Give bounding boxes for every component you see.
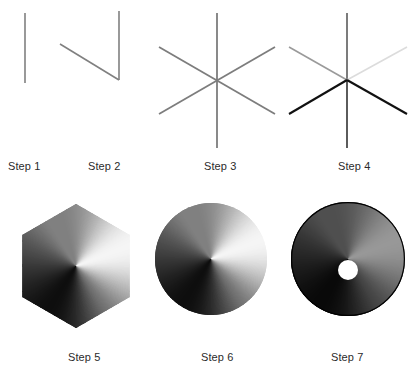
step-4-lower-right-spoke-dark [347,80,407,114]
step-4-lower-left-spoke-dark [289,80,347,114]
step-5-graphic [14,197,138,335]
step-3-graphic [155,8,285,153]
step-4-figure [285,8,414,153]
diagram-canvas: Step 1 Step 2 Step 3 Step 4 Step 5 Step … [0,0,414,367]
step-2-graphic [55,8,145,143]
step-3-figure [155,8,285,153]
step-2-upper-left-diagonal [60,44,119,80]
step-5-caption: Step 5 [68,351,100,363]
step-2-figure [55,8,145,143]
step-3-caption: Step 3 [204,160,236,172]
step-6-caption: Step 6 [201,351,233,363]
step-6-figure [155,201,267,317]
step-6-graphic [155,201,267,317]
step-7-graphic [291,201,405,317]
step-4-graphic [285,8,414,153]
step-7-figure [291,201,405,317]
step-1-caption: Step 1 [8,160,40,172]
step-2-caption: Step 2 [88,160,120,172]
step-4-upper-left-spoke-light [289,47,347,80]
step-4-caption: Step 4 [338,160,370,172]
step-4-upper-right-spoke-lightest [347,47,407,80]
step-5-figure [14,197,138,335]
step-7-caption: Step 7 [331,351,363,363]
step-7-center-hole [338,260,358,280]
